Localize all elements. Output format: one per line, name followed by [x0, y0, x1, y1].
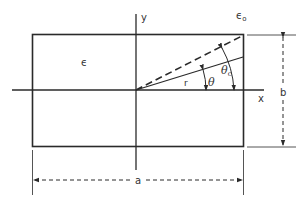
rectangle-waveguide-diagram: y x ϵ ϵo r θ θc b a: [0, 0, 304, 210]
epsilon-outside-label: ϵo: [236, 10, 246, 23]
theta-label: θ: [208, 76, 215, 89]
radius-label: r: [184, 78, 188, 88]
epsilon-inside-label: ϵ: [81, 57, 87, 68]
y-axis-label: y: [141, 12, 147, 23]
theta-arc: [203, 70, 206, 91]
x-axis-label: x: [258, 93, 264, 104]
critical-angle-ray: [136, 36, 242, 90]
dimension-a-label: a: [135, 175, 141, 186]
dimension-b-label: b: [280, 87, 286, 98]
